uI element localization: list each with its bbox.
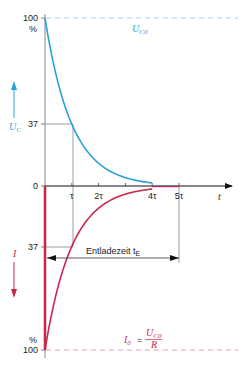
current-curve: [45, 189, 152, 350]
label-37-bottom: 37: [28, 242, 38, 252]
x-axis-label: t: [218, 191, 221, 202]
label-0: 0: [33, 181, 38, 191]
label-100-bottom: 100: [23, 345, 38, 355]
svg-text:R: R: [150, 339, 157, 350]
x-tick-label: 2τ: [94, 191, 103, 201]
x-tick-label: 4τ: [148, 191, 157, 201]
entladezeit-label: Entladezeit tE: [86, 246, 141, 257]
i0-formula: I0 = UC0 R: [123, 327, 162, 350]
svg-text:I0: I0: [123, 334, 131, 347]
uc0-label: UC0: [132, 23, 148, 36]
uc-axis-label: UC: [9, 121, 21, 134]
svg-text:=: =: [137, 335, 142, 345]
current-axis-label: I: [12, 248, 17, 259]
label-pct-top: %: [29, 24, 37, 34]
uc-arrowhead-icon: [11, 81, 17, 90]
entladezeit-arrowhead-right: [170, 255, 179, 261]
label-pct-bottom: %: [29, 335, 37, 345]
x-tick-label: 5τ: [175, 191, 184, 201]
label-37-top: 37: [28, 119, 38, 129]
capacitor-discharge-diagram: τ2τ4τ5τ Entladezeit tE 100 % 37 0 37 % 1…: [0, 0, 242, 365]
x-tick-label: τ: [70, 191, 74, 201]
uc-curve: [45, 18, 152, 183]
current-arrowhead-icon: [11, 289, 17, 298]
entladezeit-arrowhead-left: [47, 255, 56, 261]
label-100-top: 100: [23, 13, 38, 23]
